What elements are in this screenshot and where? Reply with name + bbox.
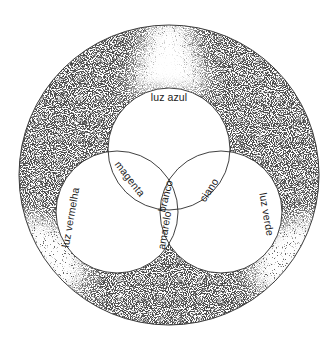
label-blue-light: luz azul [151,91,187,103]
additive-color-diagram: luz azul luz vermelha luz verde magenta … [0,0,333,348]
stippled-shadow-ring [0,0,333,348]
